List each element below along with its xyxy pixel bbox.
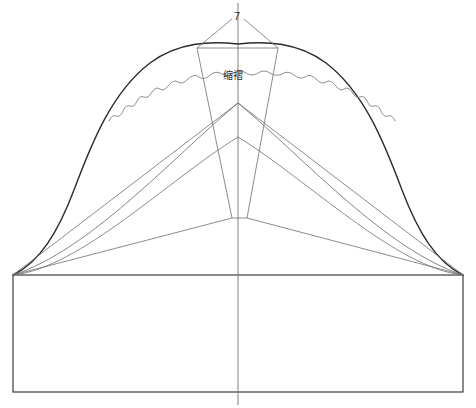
measurement-label-seven: 7 bbox=[234, 11, 240, 22]
chord-right-to-apex bbox=[238, 103, 463, 275]
chord-left-to-apex bbox=[13, 103, 238, 275]
secondary-bow-left bbox=[13, 137, 238, 275]
pattern-drawing-canvas: 7 缩褶 bbox=[0, 0, 476, 408]
pattern-svg bbox=[0, 0, 476, 408]
secondary-bow-right bbox=[238, 137, 463, 275]
gather-region-label: 缩褶 bbox=[223, 71, 243, 81]
wedge-side-right bbox=[247, 48, 278, 218]
